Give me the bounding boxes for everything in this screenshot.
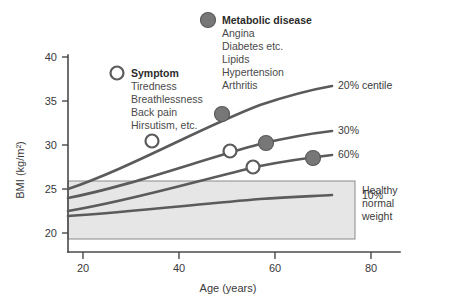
marker-symptom-30-centile bbox=[224, 145, 237, 158]
bmi-age-chart: 40 35 30 25 20 20 40 60 80 BMI (kg/m²) A… bbox=[0, 0, 450, 306]
y-tick-label-40: 40 bbox=[45, 51, 57, 63]
x-tick-label-40: 40 bbox=[173, 262, 185, 274]
symptom-legend-title: Symptom bbox=[131, 67, 179, 79]
x-tick-label-60: 60 bbox=[269, 262, 281, 274]
metabolic-legend-title: Metabolic disease bbox=[222, 14, 312, 26]
band-label-line-3: weight bbox=[361, 210, 392, 222]
band-label-line-2: normal bbox=[362, 197, 394, 209]
y-tick-label-35: 35 bbox=[45, 95, 57, 107]
metabolic-legend-item-3: Hypertension bbox=[222, 66, 284, 78]
symptom-legend-item-2: Back pain bbox=[131, 106, 177, 118]
metabolic-legend-marker-icon bbox=[201, 13, 216, 28]
metabolic-legend-item-4: Arthritis bbox=[222, 79, 258, 91]
symptom-legend-marker-icon bbox=[111, 67, 124, 80]
marker-metabolic-60-centile bbox=[306, 151, 321, 166]
healthy-weight-band bbox=[68, 181, 355, 239]
marker-symptom-60-centile bbox=[247, 161, 260, 174]
curve-label-30-centile: 30% bbox=[338, 124, 359, 136]
y-tick-label-30: 30 bbox=[45, 139, 57, 151]
curve-label-60-centile: 60% bbox=[338, 148, 359, 160]
symptom-legend-item-1: Breathlessness bbox=[131, 93, 203, 105]
symptom-legend-item-0: Tiredness bbox=[131, 80, 177, 92]
band-label-line-1: Healthy bbox=[362, 184, 398, 196]
marker-symptom-20-centile bbox=[146, 135, 159, 148]
y-tick-label-20: 20 bbox=[45, 227, 57, 239]
curve-label-20-centile: 20% centile bbox=[338, 79, 392, 91]
x-tick-label-20: 20 bbox=[77, 262, 89, 274]
chart-canvas: 40 35 30 25 20 20 40 60 80 BMI (kg/m²) A… bbox=[0, 0, 450, 306]
symptom-legend-item-3: Hirsutism, etc. bbox=[131, 119, 198, 131]
metabolic-legend-item-2: Lipids bbox=[222, 53, 249, 65]
marker-metabolic-30-centile bbox=[259, 136, 274, 151]
y-tick-label-25: 25 bbox=[45, 183, 57, 195]
marker-metabolic-20-centile bbox=[215, 107, 230, 122]
metabolic-legend-item-0: Angina bbox=[222, 27, 255, 39]
y-axis-title: BMI (kg/m²) bbox=[14, 141, 26, 198]
x-tick-label-80: 80 bbox=[365, 262, 377, 274]
x-axis-title: Age (years) bbox=[200, 282, 257, 294]
metabolic-legend-item-1: Diabetes etc. bbox=[222, 40, 283, 52]
